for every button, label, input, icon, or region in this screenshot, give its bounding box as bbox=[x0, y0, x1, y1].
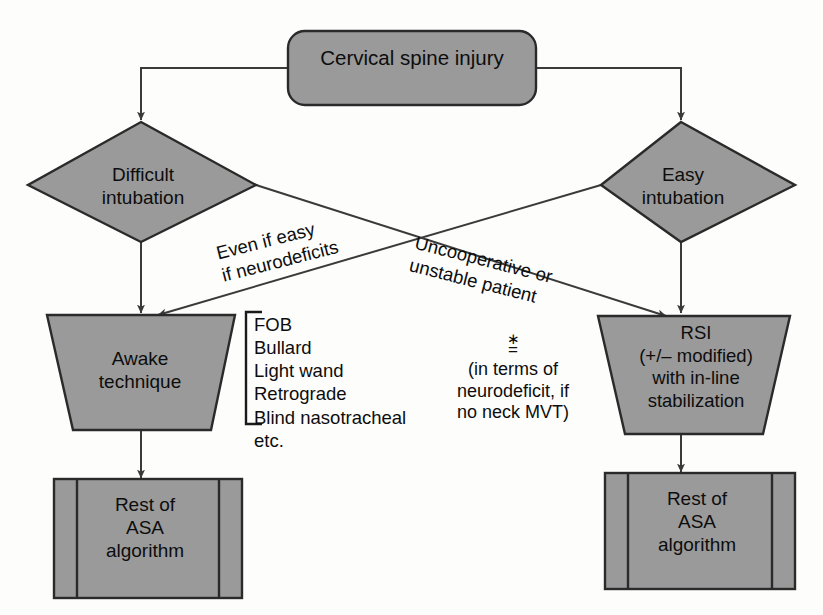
footnote-equals-glyph: = bbox=[424, 344, 602, 356]
node-awake-technique[interactable] bbox=[47, 315, 235, 430]
footnote-marker: ∗ = bbox=[424, 333, 602, 356]
flowchart-canvas: Cervical spine injury Difficult intubati… bbox=[0, 0, 823, 615]
node-easy-intubation[interactable] bbox=[601, 122, 795, 242]
node-cervical-spine-injury[interactable] bbox=[288, 31, 536, 105]
connector-root-to-difficult bbox=[141, 68, 288, 120]
technique-list: FOB Bullard Light wand Retrograde Blind … bbox=[254, 313, 434, 452]
connector-difficult-to-rsi-diagonal bbox=[256, 185, 666, 316]
flowchart-graphics bbox=[0, 0, 823, 615]
node-rest-of-asa-algorithm-left[interactable] bbox=[54, 479, 242, 598]
node-rest-of-asa-algorithm-right[interactable] bbox=[605, 473, 795, 589]
connector-easy-to-awake-diagonal bbox=[158, 185, 601, 315]
node-difficult-intubation[interactable] bbox=[28, 122, 256, 242]
node-rsi-in-line-stabilization[interactable] bbox=[598, 316, 790, 434]
footnote-text: (in terms of neurodeficit, if no neck MV… bbox=[424, 359, 602, 424]
connector-root-to-easy bbox=[536, 68, 681, 120]
